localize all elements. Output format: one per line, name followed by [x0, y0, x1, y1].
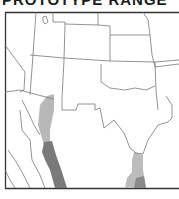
map-frame [5, 12, 179, 189]
range-dark-west [42, 141, 67, 188]
species-range [38, 94, 146, 188]
political-borders [5, 12, 179, 188]
range-map [0, 0, 179, 199]
range-light-west [38, 94, 54, 145]
